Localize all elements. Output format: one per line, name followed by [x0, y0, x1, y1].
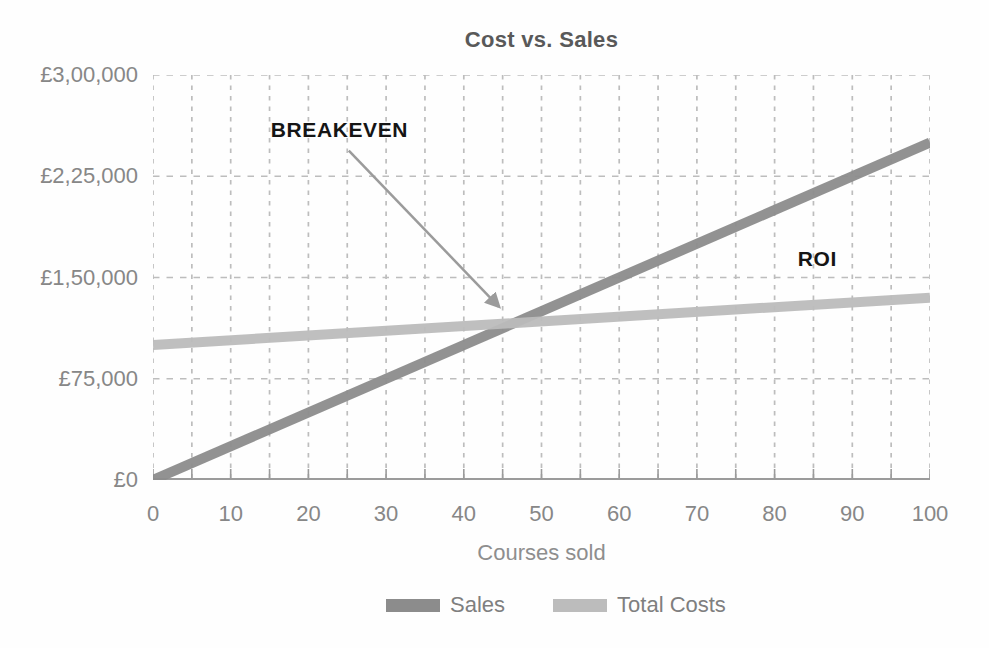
chart-title: Cost vs. Sales — [153, 27, 930, 53]
x-tick-label: 80 — [762, 501, 786, 527]
plot-area — [153, 75, 930, 480]
x-tick-label: 60 — [607, 501, 631, 527]
legend: SalesTotal Costs — [386, 592, 726, 618]
x-tick-label: 50 — [529, 501, 553, 527]
y-tick-label: £2,25,000 — [40, 163, 138, 189]
legend-label: Sales — [450, 592, 505, 618]
legend-item-sales: Sales — [386, 592, 505, 618]
x-tick-label: 90 — [840, 501, 864, 527]
legend-item-total-costs: Total Costs — [553, 592, 726, 618]
legend-label: Total Costs — [617, 592, 726, 618]
breakeven-arrow — [349, 151, 499, 307]
x-tick-label: 10 — [218, 501, 242, 527]
chart-figure: Cost vs. Sales £0£75,000£1,50,000£2,25,0… — [0, 0, 989, 648]
x-tick-label: 20 — [296, 501, 320, 527]
y-tick-label: £1,50,000 — [40, 265, 138, 291]
x-axis-tick-labels: 0102030405060708090100 — [153, 501, 930, 527]
x-axis-title: Courses sold — [153, 540, 930, 566]
x-tick-label: 100 — [912, 501, 949, 527]
legend-swatch — [553, 599, 607, 612]
legend-swatch — [386, 599, 440, 612]
y-tick-label: £0 — [114, 467, 138, 493]
x-tick-label: 30 — [374, 501, 398, 527]
y-tick-label: £75,000 — [58, 366, 138, 392]
y-tick-label: £3,00,000 — [40, 62, 138, 88]
x-tick-label: 40 — [452, 501, 476, 527]
y-axis-tick-labels: £0£75,000£1,50,000£2,25,000£3,00,000 — [0, 75, 138, 480]
x-tick-label: 0 — [147, 501, 159, 527]
x-tick-label: 70 — [685, 501, 709, 527]
